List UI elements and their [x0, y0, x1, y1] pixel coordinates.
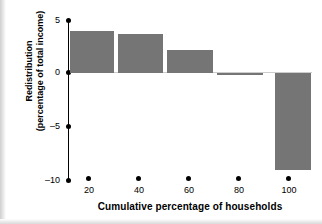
y-tick-dot-n5	[66, 124, 71, 129]
bar-20	[70, 31, 114, 73]
x-tick-label-20: 20	[84, 185, 94, 195]
x-tick-dot-20	[86, 176, 91, 181]
x-tick-label-80: 80	[234, 185, 244, 195]
bar-60	[167, 50, 213, 73]
x-axis-title: Cumulative percentage of households	[68, 201, 312, 212]
y-axis-title-line2: (percentage of total income)	[35, 0, 46, 151]
x-tick-dot-80	[236, 176, 241, 181]
y-axis-title-line1: Redistribution	[24, 41, 34, 102]
x-tick-label-40: 40	[134, 185, 144, 195]
y-tick-dot-n10	[66, 178, 71, 183]
bar-40	[118, 34, 163, 73]
y-axis-title: Redistribution (percentage of total inco…	[24, 0, 46, 151]
y-axis-line	[68, 20, 69, 182]
y-tick-dot-5	[66, 18, 71, 23]
bar-80	[217, 73, 263, 75]
y-tick-label-minus-10: –10	[32, 175, 60, 185]
chart-page: 5 0 –5 –10 20 40 60 80 100 Cumulative pe…	[0, 0, 322, 224]
x-tick-label-60: 60	[184, 185, 194, 195]
x-tick-label-100: 100	[281, 185, 296, 195]
x-tick-dot-100	[286, 176, 291, 181]
x-tick-dot-60	[186, 176, 191, 181]
bar-100	[275, 73, 311, 170]
plot-area: 5 0 –5 –10 20 40 60 80 100 Cumulative pe…	[0, 0, 322, 224]
x-tick-dot-40	[136, 176, 141, 181]
